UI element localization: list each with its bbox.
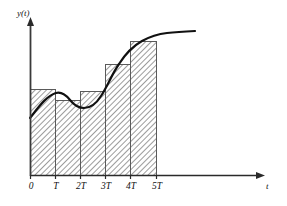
hold-bar-4T-to-5T	[131, 42, 157, 176]
x-tick-label-T: T	[51, 182, 61, 192]
x-tick-label-4T: 4T	[124, 182, 138, 192]
x-tick-label-0: 0	[26, 182, 36, 192]
hold-bar-T-to-2T	[56, 101, 81, 176]
x-tick-label-3T: 3T	[99, 182, 113, 192]
x-axis-label: t	[266, 182, 269, 191]
x-tick-label-5T: 5T	[150, 182, 164, 192]
sample-and-hold-plot	[0, 0, 287, 206]
figure-container: y(t) t 0 T 2T 3T 4T 5T	[0, 0, 287, 206]
y-axis-label: y(t)	[17, 9, 30, 18]
x-tick-label-2T: 2T	[74, 182, 88, 192]
